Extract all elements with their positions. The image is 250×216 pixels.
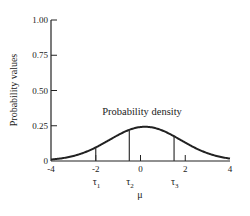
chart-canvas: Probability values 00.250.500.751.00 -4-… [0,0,250,216]
x-tick-label: 2 [183,164,188,174]
tau-3-label: τ3 [171,176,179,190]
tau-2-label: τ2 [126,176,134,190]
y-tick-label: 0.75 [32,50,48,60]
x-tick-label: 0 [138,164,143,174]
y-axis-title: Probability values [8,54,19,127]
x-axis-title: μ [137,189,142,200]
threshold-lines: τ1τ2τ3 [93,130,179,190]
tau-1-label: τ1 [93,176,101,190]
x-tick-label: -2 [92,164,100,174]
y-tick-label: 1.00 [32,15,48,25]
y-tick-label: 0.25 [32,121,48,131]
density-curve [51,127,230,160]
curve-label: Probability density [102,106,182,117]
y-ticks: 00.250.500.751.00 [32,15,57,166]
x-tick-label: -4 [47,164,55,174]
x-ticks: -4-2024 [47,155,233,174]
x-tick-label: 4 [228,164,233,174]
y-tick-label: 0.50 [32,86,48,96]
axes [51,20,230,161]
